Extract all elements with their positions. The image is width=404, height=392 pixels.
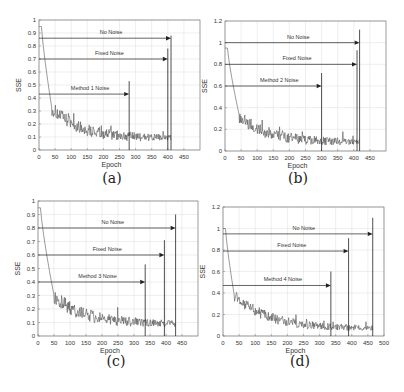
y-tick-label: 0.6: [214, 83, 223, 89]
y-tick-label: 1: [32, 198, 36, 204]
x-tick-label: 150: [268, 155, 279, 161]
annotation-label: No Noise: [100, 29, 123, 35]
x-tick-label: 100: [250, 340, 261, 346]
annotation-label: No Noise: [101, 219, 124, 225]
x-axis-label: Epoch: [102, 161, 122, 169]
y-axis-label: SSE: [201, 79, 208, 93]
subplot-c: 05010015020025030035040045000.10.20.30.4…: [14, 198, 198, 355]
caption-a: (a): [82, 170, 142, 186]
x-tick-label: 500: [379, 340, 390, 346]
x-tick-label: 150: [81, 340, 92, 346]
arrowhead-icon: [124, 92, 129, 96]
x-tick-label: 0: [37, 154, 41, 160]
x-tick-label: 300: [129, 340, 140, 346]
x-tick-label: 250: [298, 340, 309, 346]
y-tick-label: 0.2: [212, 312, 221, 318]
x-tick-label: 50: [236, 340, 243, 346]
x-tick-label: 200: [284, 155, 295, 161]
x-tick-label: 50: [238, 155, 245, 161]
x-tick-label: 400: [349, 155, 360, 161]
x-tick-label: 450: [363, 340, 374, 346]
y-tick-label: 0.9: [28, 30, 37, 36]
x-tick-label: 300: [317, 155, 328, 161]
x-axis-label: Epoch: [288, 162, 308, 170]
sse-curve: [225, 48, 359, 145]
arrowhead-icon: [163, 57, 168, 61]
arrowhead-icon: [317, 84, 322, 88]
x-tick-label: 100: [66, 154, 77, 160]
x-tick-label: 400: [163, 154, 174, 160]
y-tick-label: 0.3: [28, 108, 37, 114]
arrowhead-icon: [368, 232, 373, 236]
x-tick-label: 50: [51, 340, 58, 346]
arrowhead-icon: [326, 283, 331, 287]
subplot-d: 05010015020025030035040045050000.20.40.6…: [199, 204, 390, 355]
arrowhead-icon: [140, 280, 145, 284]
y-tick-label: 0: [217, 333, 221, 339]
annotation-label: Fixed Noise: [95, 50, 124, 56]
arrowhead-icon: [171, 226, 176, 230]
y-tick-label: 1.2: [214, 18, 223, 24]
y-tick-label: 1.2: [212, 204, 221, 210]
y-axis-label: SSE: [15, 78, 22, 92]
annotation-label: Fixed Noise: [282, 55, 311, 61]
arrowhead-icon: [344, 249, 349, 253]
x-tick-label: 450: [179, 154, 190, 160]
y-tick-label: 0: [32, 333, 36, 339]
figure-canvas: 05010015020025030035040045000.10.20.30.4…: [0, 0, 404, 392]
annotation-label: Method 1 Noise: [71, 85, 110, 91]
x-tick-label: 450: [177, 340, 188, 346]
x-tick-label: 0: [36, 340, 40, 346]
x-tick-label: 250: [114, 154, 125, 160]
y-tick-label: 0.8: [214, 61, 223, 67]
x-tick-label: 200: [97, 340, 108, 346]
subplot-a: 05010015020025030035040045000.10.20.30.4…: [15, 17, 200, 169]
x-tick-label: 0: [223, 155, 227, 161]
y-tick-label: 0.8: [212, 247, 221, 253]
x-tick-label: 200: [282, 340, 293, 346]
y-axis-label: SSE: [14, 261, 21, 275]
x-tick-label: 100: [252, 155, 263, 161]
y-tick-label: 0.4: [214, 105, 223, 111]
subplot-b: 05010015020025030035040045000.20.40.60.8…: [201, 18, 386, 170]
x-tick-label: 350: [147, 154, 158, 160]
y-tick-label: 0.1: [28, 134, 37, 140]
x-tick-label: 300: [131, 154, 142, 160]
y-axis-label: SSE: [199, 264, 206, 278]
y-tick-label: 0: [33, 147, 37, 153]
y-tick-label: 0.4: [212, 290, 221, 296]
arrowhead-icon: [355, 40, 360, 44]
x-tick-label: 400: [347, 340, 358, 346]
x-tick-label: 150: [82, 154, 93, 160]
y-tick-label: 0.6: [212, 269, 221, 275]
y-tick-label: 1: [217, 226, 221, 232]
y-tick-label: 0.6: [27, 252, 36, 258]
y-tick-label: 0.4: [28, 95, 37, 101]
x-tick-label: 350: [145, 340, 156, 346]
x-tick-label: 300: [315, 340, 326, 346]
annotation-label: Fixed Noise: [93, 246, 122, 252]
y-tick-label: 0.5: [28, 82, 37, 88]
x-tick-label: 250: [300, 155, 311, 161]
caption-b: (b): [268, 170, 328, 186]
x-tick-label: 250: [113, 340, 124, 346]
x-tick-label: 200: [98, 154, 109, 160]
x-tick-label: 100: [65, 340, 76, 346]
arrowhead-icon: [159, 253, 164, 257]
annotation-label: Method 3 Noise: [78, 273, 117, 279]
x-tick-label: 450: [365, 155, 376, 161]
arrowhead-icon: [352, 62, 357, 66]
caption-d: (d): [270, 353, 330, 369]
y-tick-label: 0.3: [27, 293, 36, 299]
y-tick-label: 0.6: [28, 69, 37, 75]
y-tick-label: 0.9: [27, 212, 36, 218]
y-tick-label: 0.7: [27, 239, 36, 245]
y-tick-label: 0.7: [28, 56, 37, 62]
annotation-label: No Noise: [287, 34, 310, 40]
y-tick-label: 0.8: [28, 43, 37, 49]
y-tick-label: 0.8: [27, 225, 36, 231]
y-tick-label: 1: [219, 40, 223, 46]
annotation-label: Method 2 Noise: [260, 77, 299, 83]
x-tick-label: 350: [331, 340, 342, 346]
y-tick-label: 0.1: [27, 320, 36, 326]
